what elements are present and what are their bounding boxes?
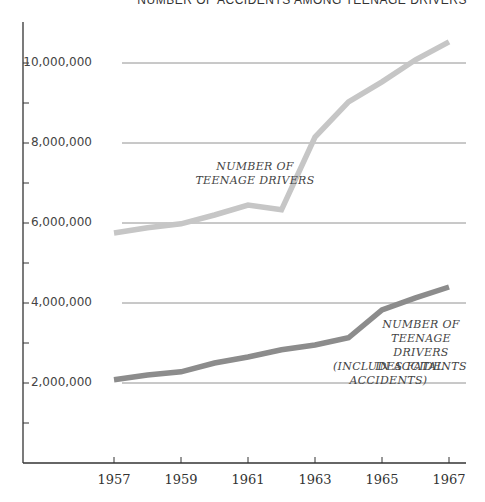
y-tick-label: 10,000,000 — [0, 55, 92, 69]
series-label-line: NUMBER OF — [180, 160, 330, 174]
series-line-teenage-drivers — [114, 42, 449, 233]
series-note: (INCLUDES FATAL ACCIDENTS) — [296, 360, 481, 388]
y-tick-label: 2,000,000 — [0, 375, 92, 389]
series-label-line: TEENAGE DRIVERS — [366, 332, 476, 360]
series-label-line: NUMBER OF — [366, 318, 476, 332]
x-tick-label: 1963 — [290, 472, 340, 487]
line-chart — [0, 0, 485, 502]
axes — [23, 22, 466, 463]
y-tick-label: 8,000,000 — [0, 135, 92, 149]
y-tick-label: 4,000,000 — [0, 295, 92, 309]
x-tick-label: 1961 — [223, 472, 273, 487]
x-tick-label: 1967 — [424, 472, 474, 487]
x-tick-label: 1965 — [357, 472, 407, 487]
x-tick-label: 1959 — [156, 472, 206, 487]
x-tick-label: 1957 — [89, 472, 139, 487]
series-label-line: TEENAGE DRIVERS — [180, 174, 330, 188]
series-label-teenage-drivers: NUMBER OF TEENAGE DRIVERS — [180, 160, 330, 188]
y-tick-label: 6,000,000 — [0, 215, 92, 229]
